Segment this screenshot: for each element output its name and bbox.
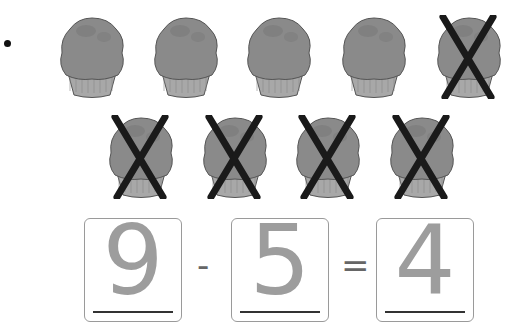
muffin xyxy=(148,15,224,99)
muffin xyxy=(241,15,317,99)
handwritten-digit-difference: 4 xyxy=(377,213,473,309)
muffin-icon xyxy=(241,15,317,99)
muffin-icon xyxy=(290,115,366,199)
bullet-point xyxy=(4,40,11,47)
muffin xyxy=(54,15,130,99)
answer-underline xyxy=(240,311,320,313)
muffin xyxy=(336,15,412,99)
muffin-icon xyxy=(431,15,507,99)
answer-box-subtrahend[interactable]: 5 xyxy=(231,218,329,322)
answer-underline xyxy=(385,311,465,313)
muffin-icon xyxy=(103,115,179,199)
muffin-crossed-out xyxy=(103,115,179,199)
muffin-crossed-out xyxy=(290,115,366,199)
muffin-icon xyxy=(336,15,412,99)
muffin-crossed-out xyxy=(384,115,460,199)
muffin-icon xyxy=(54,15,130,99)
answer-box-difference[interactable]: 4 xyxy=(376,218,474,322)
handwritten-digit-subtrahend: 5 xyxy=(232,213,328,309)
equals-sign: = xyxy=(341,248,370,282)
muffin-icon xyxy=(148,15,224,99)
handwritten-digit-minuend: 9 xyxy=(85,213,181,309)
muffin-icon xyxy=(197,115,273,199)
answer-box-minuend[interactable]: 9 xyxy=(84,218,182,322)
muffin-crossed-out xyxy=(197,115,273,199)
muffin-crossed-out xyxy=(431,15,507,99)
muffin-icon xyxy=(384,115,460,199)
minus-sign: - xyxy=(197,248,209,282)
answer-underline xyxy=(93,311,173,313)
